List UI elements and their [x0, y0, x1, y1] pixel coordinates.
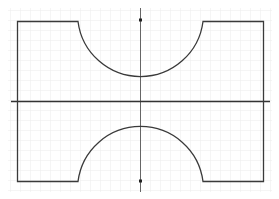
- diagram-canvas: [0, 0, 279, 199]
- bottom-center-point: [139, 180, 142, 183]
- top-center-point: [139, 19, 142, 22]
